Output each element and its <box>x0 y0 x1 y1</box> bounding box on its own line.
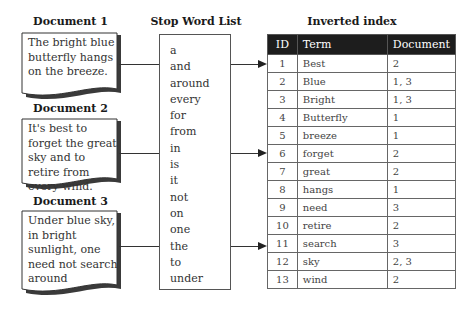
cell-id: 11 <box>268 235 298 253</box>
cell-id: 2 <box>268 73 298 91</box>
arrowhead-icon <box>258 60 267 68</box>
arrowhead-icon <box>258 242 267 250</box>
cell-term: forget <box>297 145 387 163</box>
cell-id: 10 <box>268 217 298 235</box>
cell-document: 1 <box>387 181 455 199</box>
cell-document: 1, 3 <box>387 73 455 91</box>
cell-term: Blue <box>297 73 387 91</box>
document-2-text: It's best to forget the great sky and to… <box>28 122 118 195</box>
table-row: 1Best2 <box>268 55 456 73</box>
document-3-box: Under blue sky, in bright sunlight, one … <box>22 211 119 297</box>
stop-word-list-title: Stop Word List <box>150 15 242 28</box>
cell-document: 3 <box>387 235 455 253</box>
cell-document: 2 <box>387 163 455 181</box>
document-2-box: It's best to forget the great sky and to… <box>22 119 119 191</box>
stop-word: not <box>170 190 230 206</box>
table-row: 7great2 <box>268 163 456 181</box>
cell-id: 13 <box>268 271 298 289</box>
inverted-index-table: ID Term Document 1Best2 2Blue1, 3 3Brigh… <box>267 34 456 289</box>
cell-term: hangs <box>297 181 387 199</box>
cell-id: 12 <box>268 253 298 271</box>
cell-id: 4 <box>268 109 298 127</box>
cell-term: great <box>297 163 387 181</box>
document-1-title: Document 1 <box>22 15 119 28</box>
stop-word: on <box>170 206 230 222</box>
connector-stoplist-to-index-3 <box>231 246 259 247</box>
document-2-title: Document 2 <box>22 102 119 115</box>
document-3-text: Under blue sky, in bright sunlight, one … <box>28 214 118 287</box>
column-header-document: Document <box>387 35 455 55</box>
stop-word: every <box>170 92 230 108</box>
connector-stoplist-to-index-2 <box>231 153 259 154</box>
stop-word: and <box>170 59 230 75</box>
cell-id: 9 <box>268 199 298 217</box>
table-row: 9need3 <box>268 199 456 217</box>
table-row: 6forget2 <box>268 145 456 163</box>
stop-word: it <box>170 173 230 189</box>
cell-document: 2 <box>387 271 455 289</box>
table-row: 5breeze1 <box>268 127 456 145</box>
connector-doc2-to-stoplist <box>119 153 159 154</box>
table-row: 11search3 <box>268 235 456 253</box>
cell-id: 5 <box>268 127 298 145</box>
cell-term: retire <box>297 217 387 235</box>
cell-term: Butterfly <box>297 109 387 127</box>
stop-word: under <box>170 271 230 287</box>
table-row: 3Bright1, 3 <box>268 91 456 109</box>
cell-term: need <box>297 199 387 217</box>
stop-word: around <box>170 76 230 92</box>
cell-document: 1 <box>387 127 455 145</box>
cell-document: 2 <box>387 55 455 73</box>
stop-word-list-box: a and around every for from in is it not… <box>159 34 231 290</box>
cell-id: 3 <box>268 91 298 109</box>
cell-term: search <box>297 235 387 253</box>
stop-word: for <box>170 108 230 124</box>
cell-id: 8 <box>268 181 298 199</box>
cell-id: 6 <box>268 145 298 163</box>
document-3-title: Document 3 <box>22 195 119 208</box>
table-row: 13wind2 <box>268 271 456 289</box>
document-1-text: The bright blue butterfly hangs on the b… <box>28 36 118 80</box>
table-header-row: ID Term Document <box>268 35 456 55</box>
cell-document: 2, 3 <box>387 253 455 271</box>
column-header-term: Term <box>297 35 387 55</box>
stop-word: in <box>170 141 230 157</box>
cell-document: 3 <box>387 199 455 217</box>
cell-document: 2 <box>387 145 455 163</box>
stop-word: one <box>170 222 230 238</box>
stop-word: is <box>170 157 230 173</box>
cell-term: wind <box>297 271 387 289</box>
inverted-index-title: Inverted index <box>267 15 437 28</box>
cell-term: sky <box>297 253 387 271</box>
connector-doc1-to-stoplist <box>119 64 159 65</box>
cell-id: 7 <box>268 163 298 181</box>
table-row: 12sky2, 3 <box>268 253 456 271</box>
stop-word: from <box>170 124 230 140</box>
stop-word: to <box>170 255 230 271</box>
table-row: 10retire2 <box>268 217 456 235</box>
cell-term: Best <box>297 55 387 73</box>
cell-document: 1 <box>387 109 455 127</box>
cell-document: 1, 3 <box>387 91 455 109</box>
connector-doc3-to-stoplist <box>119 246 159 247</box>
connector-stoplist-to-index-1 <box>231 64 259 65</box>
document-1-box: The bright blue butterfly hangs on the b… <box>22 33 119 99</box>
stop-word-list: a and around every for from in is it not… <box>160 35 230 287</box>
cell-document: 2 <box>387 217 455 235</box>
table-row: 4Butterfly1 <box>268 109 456 127</box>
cell-id: 1 <box>268 55 298 73</box>
stop-word: a <box>170 43 230 59</box>
cell-term: breeze <box>297 127 387 145</box>
stop-word: the <box>170 239 230 255</box>
cell-term: Bright <box>297 91 387 109</box>
arrowhead-icon <box>258 149 267 157</box>
table-row: 2Blue1, 3 <box>268 73 456 91</box>
column-header-id: ID <box>268 35 298 55</box>
table-row: 8hangs1 <box>268 181 456 199</box>
